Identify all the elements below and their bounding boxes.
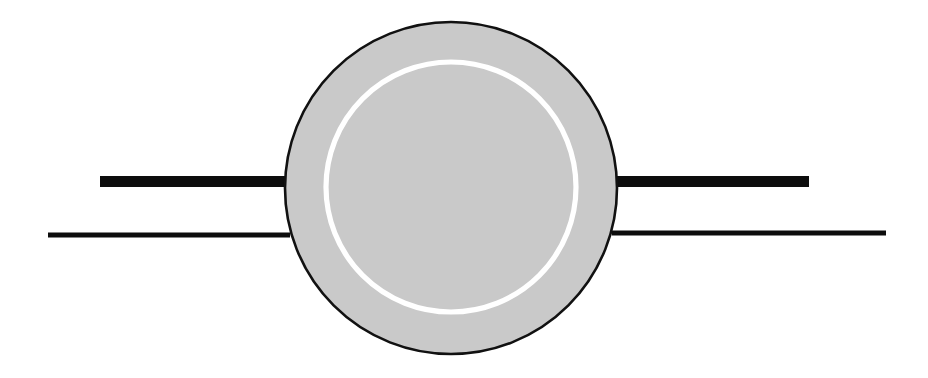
outer-disc bbox=[285, 22, 617, 354]
diagram-svg: Schematic line drawing: shaded disc with… bbox=[0, 0, 928, 378]
diagram-canvas: Schematic line drawing: shaded disc with… bbox=[0, 0, 928, 378]
